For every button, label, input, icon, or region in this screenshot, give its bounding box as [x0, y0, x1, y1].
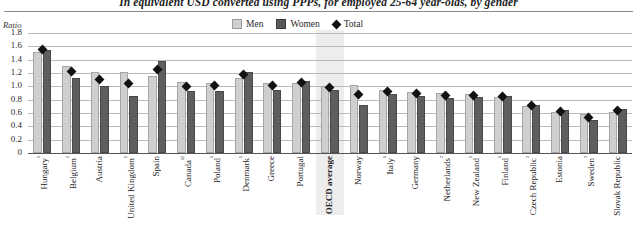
x-tick-label: Norway	[354, 156, 363, 185]
bar-group	[287, 33, 316, 153]
title-divider	[4, 11, 633, 12]
bar-men	[551, 112, 560, 153]
legend-label-women: Women	[290, 19, 319, 29]
x-tick-label: United Kingdom¹	[124, 156, 136, 219]
bar-men	[609, 112, 618, 153]
bar-group	[431, 33, 460, 153]
bar-women	[273, 90, 282, 153]
bar-men	[235, 78, 244, 153]
bar-men	[436, 93, 445, 153]
x-axis-labels: Hungary¹Belgium²AustriaUnited Kingdom¹Sp…	[28, 156, 632, 250]
men-swatch-icon	[232, 19, 242, 29]
bar-women	[72, 78, 81, 153]
x-tick-label: Estonia	[555, 156, 564, 183]
chart-legend: Men Women Total	[232, 19, 363, 29]
bar-women	[100, 86, 109, 153]
bar-men	[494, 97, 503, 153]
bar-group	[143, 33, 172, 153]
bar-group	[517, 33, 546, 153]
bar-group	[86, 33, 115, 153]
bar-men	[522, 106, 531, 153]
bar-women	[474, 97, 483, 153]
bar-group	[344, 33, 373, 153]
bar-women	[330, 90, 339, 153]
bar-group	[258, 33, 287, 153]
bar-women	[388, 94, 397, 153]
bar-men	[206, 83, 215, 153]
bar-men	[177, 82, 186, 153]
legend-item-total: Total	[333, 19, 363, 29]
bar-men	[407, 92, 416, 153]
x-tick-label: Sweden³	[584, 156, 596, 186]
bar-group	[114, 33, 143, 153]
bar-men	[62, 66, 71, 153]
x-tick-label: Poland¹	[210, 156, 222, 183]
x-tick-label: Spain	[152, 156, 161, 177]
x-tick-label: Austria	[95, 156, 104, 183]
bar-group	[229, 33, 258, 153]
legend-item-women: Women	[276, 19, 319, 29]
x-tick-label: Czech Republic²	[526, 156, 538, 215]
bar-women	[532, 105, 541, 153]
bar-men	[148, 76, 157, 153]
chart-title: In equivalent USD converted using PPPs, …	[0, 0, 637, 8]
bar-group	[546, 33, 575, 153]
y-tick-label: 1.0	[0, 81, 22, 90]
y-tick-label: 1.8	[0, 28, 22, 37]
bar-women	[359, 105, 368, 153]
bar-group	[603, 33, 632, 153]
bar-women	[158, 61, 167, 153]
x-tick-label: Portugal	[296, 156, 305, 187]
bar-men	[321, 86, 330, 153]
y-tick-label: 1.2	[0, 68, 22, 77]
x-axis-line	[28, 153, 632, 154]
bar-men	[465, 94, 474, 153]
x-tick-label: OECD average	[325, 156, 334, 214]
bar-men	[33, 52, 42, 153]
women-swatch-icon	[276, 19, 286, 29]
bar-group	[488, 33, 517, 153]
y-tick-label: 0.2	[0, 135, 22, 144]
x-tick-label: Finland¹	[498, 156, 510, 185]
x-tick-label: Netherlands²	[440, 156, 452, 201]
y-tick-label: 0.8	[0, 95, 22, 104]
bar-group	[402, 33, 431, 153]
bar-women	[244, 72, 253, 153]
x-tick-label: Italy¹	[383, 156, 395, 174]
bar-women	[187, 91, 196, 153]
bar-group	[574, 33, 603, 153]
bar-men	[292, 83, 301, 153]
bar-group	[201, 33, 230, 153]
y-tick-label: 0	[0, 148, 22, 157]
legend-label-men: Men	[246, 19, 263, 29]
bar-women	[215, 91, 224, 153]
y-axis-ticks: 00.20.40.60.81.01.21.41.61.8	[0, 33, 26, 153]
bar-women	[446, 98, 455, 153]
chart-page: In equivalent USD converted using PPPs, …	[0, 0, 637, 250]
bar-men	[379, 90, 388, 153]
x-tick-label: New Zealand¹	[469, 156, 481, 206]
bar-group	[57, 33, 86, 153]
y-tick-label: 0.6	[0, 108, 22, 117]
x-tick-label: Slovak Republic	[613, 156, 622, 216]
plot-area	[28, 33, 632, 153]
x-tick-label: Hungary¹	[37, 156, 49, 189]
y-tick-label: 1.4	[0, 55, 22, 64]
bar-group	[172, 33, 201, 153]
bar-women	[302, 81, 311, 153]
bar-group	[373, 33, 402, 153]
diamond-marker-icon	[331, 19, 341, 29]
x-tick-label: Greece	[267, 156, 276, 181]
y-tick-label: 0.4	[0, 121, 22, 130]
x-tick-label: Canada¹²	[181, 156, 193, 187]
legend-label-total: Total	[344, 19, 363, 29]
bar-women	[589, 120, 598, 153]
bar-women	[503, 96, 512, 153]
bar-women	[561, 110, 570, 153]
bar-women	[417, 96, 426, 153]
bar-women	[618, 109, 627, 153]
bar-women	[129, 96, 138, 153]
legend-item-men: Men	[232, 19, 263, 29]
bar-women	[43, 50, 52, 153]
x-tick-label: Germany	[411, 156, 420, 190]
